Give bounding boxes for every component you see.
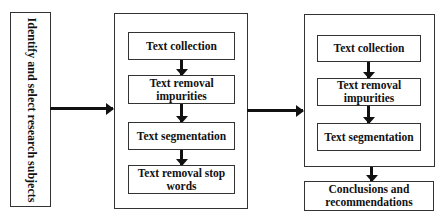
start-box: Identify and select research subjects (10, 12, 51, 207)
middle-step-label: Text collection (146, 40, 217, 53)
right-step-text-removal-impurities: Text removal impurities (317, 78, 421, 106)
arrow-right-to-conclusions (370, 167, 373, 181)
middle-step-text-segmentation: Text segmentation (128, 122, 235, 150)
arrow-right-1-2 (367, 62, 370, 78)
arrow-middle-2-3 (180, 104, 183, 122)
right-step-label: Text segmentation (324, 131, 413, 144)
right-step-label: Text removal impurities (320, 79, 418, 105)
arrow-middle-1-2 (180, 60, 183, 75)
middle-step-text-collection: Text collection (128, 32, 235, 60)
arrow-start-to-middle (50, 107, 113, 110)
right-step-text-collection: Text collection (317, 35, 421, 62)
conclusions-box: Conclusions and recommendations (304, 181, 434, 211)
middle-step-label: Text removal impurities (131, 77, 232, 103)
conclusions-label: Conclusions and recommendations (307, 183, 431, 209)
arrow-middle-to-right (247, 109, 303, 112)
arrow-middle-3-4 (180, 150, 183, 165)
middle-step-label: Text segmentation (137, 130, 226, 143)
middle-step-text-removal-stop-words: Text removal stop words (128, 165, 235, 194)
right-step-label: Text collection (334, 42, 405, 55)
right-step-text-segmentation: Text segmentation (317, 123, 421, 151)
arrow-right-2-3 (367, 106, 370, 123)
middle-step-label: Text removal stop words (131, 167, 232, 193)
middle-step-text-removal-impurities: Text removal impurities (128, 75, 235, 104)
start-label: Identify and select research subjects (23, 17, 38, 202)
